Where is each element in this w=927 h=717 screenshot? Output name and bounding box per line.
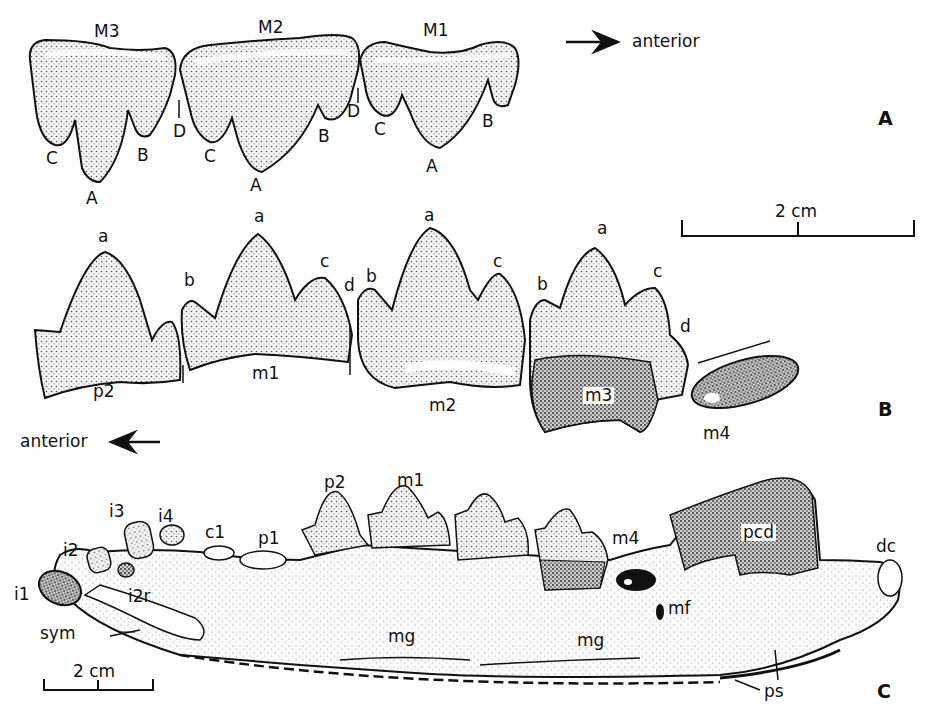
scale-bar-top <box>682 220 914 237</box>
label-i2r: i2r <box>128 588 151 605</box>
label-pcd: pcd <box>741 524 776 541</box>
label-p1: p1 <box>258 530 280 547</box>
label-p2-c: p2 <box>324 474 346 491</box>
cusp-p2-a: a <box>98 228 108 245</box>
tooth-p2 <box>35 252 180 398</box>
cusp-m3-a: a <box>597 220 607 237</box>
anterior-label-top: anterior <box>632 33 699 50</box>
cusp-M1-D: D <box>347 103 360 120</box>
label-p2-b: p2 <box>93 383 115 400</box>
label-m4-c: m4 <box>612 530 639 547</box>
cusp-M3-A: A <box>86 190 98 207</box>
mandibular-opening <box>616 569 656 591</box>
jaw-tooth-p2 <box>302 492 368 555</box>
cusp-M2-B: B <box>318 128 330 145</box>
incisor-i2r <box>118 563 134 577</box>
panel-label-a: A <box>878 109 893 128</box>
label-i2: i2 <box>63 542 79 559</box>
jaw-tooth-m1 <box>368 486 450 548</box>
cusp-M3-C: C <box>46 150 58 167</box>
label-M2: M2 <box>258 19 283 36</box>
cusp-m1-d: d <box>344 277 355 294</box>
label-c1: c1 <box>205 524 225 541</box>
cusp-m3-c: c <box>653 263 662 280</box>
label-m2-b: m2 <box>429 397 456 414</box>
canine-c1-alveolus <box>204 546 234 560</box>
label-sym: sym <box>40 625 75 642</box>
cusp-m3-b: b <box>537 276 548 293</box>
cusp-m2-a: a <box>424 207 434 224</box>
cusp-m1-b: b <box>184 272 195 289</box>
label-m3-b: m3 <box>583 387 614 404</box>
label-m1-b: m1 <box>252 365 279 382</box>
anterior-label-mid: anterior <box>20 433 87 450</box>
label-m1-c: m1 <box>397 472 424 489</box>
label-ps: ps <box>764 683 784 700</box>
cusp-M3-B: B <box>137 147 149 164</box>
label-M3: M3 <box>94 23 119 40</box>
scale-label-bottom: 2 cm <box>73 663 115 680</box>
tooth-m4-alveolus <box>686 346 804 419</box>
panel-label-c: C <box>877 682 891 701</box>
label-i1: i1 <box>14 586 30 603</box>
mental-foramen <box>656 604 664 620</box>
panel-label-b: B <box>878 400 892 419</box>
label-i3: i3 <box>109 503 125 520</box>
cusp-M1-A: A <box>426 158 438 175</box>
label-M1: M1 <box>423 22 448 39</box>
cusp-m2-c: c <box>493 253 502 270</box>
dentary-condyle <box>878 560 902 596</box>
cusp-M2-D: D <box>173 123 186 140</box>
incisor-i4 <box>160 525 184 545</box>
label-m4-b: m4 <box>703 425 730 442</box>
label-mf: mf <box>668 600 691 617</box>
cusp-m3-d: d <box>680 318 691 335</box>
p1-alveolus <box>240 551 286 569</box>
label-mg-left: mg <box>388 628 415 645</box>
figure-drawing <box>0 0 927 717</box>
label-i4: i4 <box>158 508 174 525</box>
panel-a-molars <box>30 35 519 182</box>
cusp-M2-A: A <box>250 177 262 194</box>
cusp-m1-a: a <box>254 208 264 225</box>
cusp-M2-C: C <box>204 148 216 165</box>
jaw-tooth-m2 <box>455 494 528 560</box>
cusp-M1-B: B <box>482 113 494 130</box>
label-mg-right: mg <box>577 632 604 649</box>
scale-label-top: 2 cm <box>775 203 817 220</box>
cusp-m1-c: c <box>320 253 329 270</box>
cusp-m2-b: b <box>366 268 377 285</box>
label-dc: dc <box>876 538 896 555</box>
cusp-M1-C: C <box>374 121 386 138</box>
